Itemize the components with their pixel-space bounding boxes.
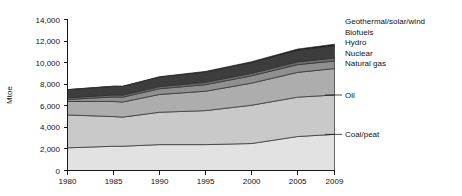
stacked-area-chart: 02,0004,0006,0008,00010,00012,00014,000 … (0, 0, 462, 196)
y-tick-label: 2,000 (40, 145, 61, 154)
y-tick-label: 12,000 (36, 37, 61, 46)
x-tick-label: 1995 (197, 177, 215, 186)
callout-label: Coal/peat (345, 130, 380, 139)
x-tick-label: 2005 (289, 177, 307, 186)
legend-item-label: Biofuels (345, 28, 373, 37)
x-tick-label: 1980 (59, 177, 77, 186)
legend-item-label: Hydro (345, 38, 367, 47)
legend-item-label: Nuclear (345, 49, 373, 58)
y-tick-label: 14,000 (36, 16, 61, 25)
x-tick-label: 2000 (243, 177, 261, 186)
area-bands-group (68, 44, 335, 170)
y-tick-label: 8,000 (40, 80, 61, 89)
x-tick-label: 1985 (105, 177, 123, 186)
y-axis-ticks-group: 02,0004,0006,0008,00010,00012,00014,000 (36, 16, 68, 176)
callout-label: Oil (345, 91, 355, 100)
y-tick-label: 10,000 (36, 59, 61, 68)
y-tick-label: 4,000 (40, 123, 61, 132)
legend-group: Geothermal/solar/windBiofuelsHydroNuclea… (345, 17, 425, 68)
x-tick-label: 2009 (326, 177, 344, 186)
x-axis-ticks-group: 1980198519901995200020052009 (59, 171, 344, 187)
y-axis-title: Mtoe (5, 86, 14, 104)
legend-item-label: Natural gas (345, 59, 386, 68)
chart-canvas: 02,0004,0006,0008,00010,00012,00014,000 … (0, 0, 462, 196)
legend-item-label: Geothermal/solar/wind (345, 17, 425, 26)
y-tick-label: 6,000 (40, 102, 61, 111)
y-tick-label: 0 (56, 167, 61, 176)
x-tick-label: 1990 (151, 177, 169, 186)
